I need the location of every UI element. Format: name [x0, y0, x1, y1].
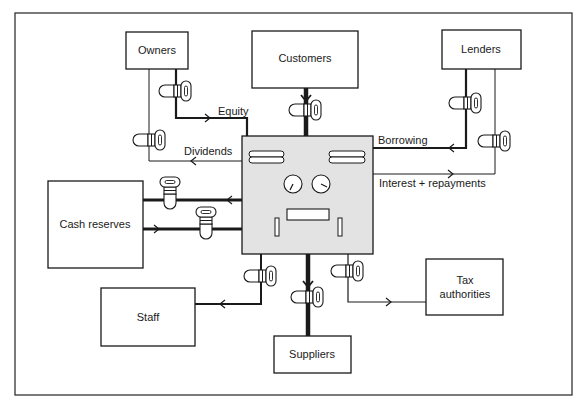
vent-left-icon [249, 151, 284, 157]
slot-right-icon [338, 218, 342, 236]
flow-label-equity: Equity [218, 105, 249, 117]
flow-label-borrowing: Borrowing [378, 134, 428, 146]
node-label: Customers [278, 52, 332, 64]
node-label: Suppliers [289, 348, 335, 360]
flow-label-dividends: Dividends [184, 145, 233, 157]
node-owners: Owners [126, 32, 188, 69]
node-suppliers: Suppliers [274, 336, 351, 373]
node-tax-authorities: Tax authorities [426, 259, 503, 315]
node-label-line1: Tax [456, 274, 474, 286]
node-staff: Staff [101, 288, 195, 346]
tap-valve-icon [160, 177, 180, 209]
flow-equity [176, 69, 247, 136]
node-cash-reserves: Cash reserves [48, 181, 143, 268]
node-label: Staff [137, 311, 160, 323]
display-slot-icon [287, 209, 329, 220]
tap-valve-icon [478, 131, 510, 151]
business-machine [242, 136, 373, 254]
node-label-line2: authorities [440, 288, 491, 300]
node-customers: Customers [252, 31, 358, 88]
slot-left-icon [275, 218, 279, 236]
cash-flow-diagram: Equity Dividends Borrowing Interest + re… [0, 0, 581, 408]
tap-valve-icon [196, 207, 216, 239]
node-label: Cash reserves [60, 218, 131, 230]
node-label: Owners [138, 44, 176, 56]
vent-right-icon [329, 151, 365, 157]
flow-interest [373, 69, 495, 174]
tap-valve-icon [331, 261, 363, 281]
flow-label-interest: Interest + repayments [379, 177, 486, 189]
node-label: Lenders [461, 43, 501, 55]
node-lenders: Lenders [442, 30, 521, 69]
